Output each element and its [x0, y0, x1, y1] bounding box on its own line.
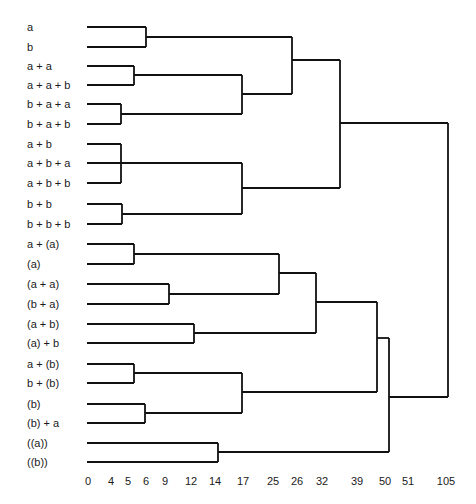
leaf-label: (b + a)	[27, 298, 59, 310]
leaf-label: a + b + a	[27, 157, 71, 169]
leaf-label: b	[27, 41, 33, 53]
x-tick-label: 17	[237, 475, 249, 487]
leaf-label: b + (b)	[27, 377, 59, 389]
x-tick-label: 32	[316, 475, 328, 487]
leaf-label: b + a + a	[27, 98, 71, 110]
leaf-label: a + b	[27, 138, 52, 150]
x-tick-label: 25	[267, 475, 279, 487]
x-tick-label: 9	[162, 475, 168, 487]
leaf-label: (a + b)	[27, 318, 59, 330]
leaf-label: a + a	[27, 60, 53, 72]
leaf-label: a + a + b	[27, 79, 70, 91]
leaf-labels: aba + aa + a + bb + a + ab + a + ba + ba…	[27, 21, 71, 468]
x-tick-label: 14	[209, 475, 221, 487]
x-tick-label: 50	[379, 475, 391, 487]
leaf-label: (b) + a	[27, 417, 60, 429]
x-tick-label: 51	[402, 475, 414, 487]
leaf-label: b + a + b	[27, 118, 70, 130]
x-tick-label: 26	[291, 475, 303, 487]
x-axis-tick-labels: 04569121417252632395051105	[85, 475, 455, 487]
leaf-label: (a) + b	[27, 337, 59, 349]
x-tick-label: 105	[437, 475, 455, 487]
leaf-label: a + b + b	[27, 177, 70, 189]
dendrogram: aba + aa + a + bb + a + ab + a + ba + ba…	[0, 0, 476, 504]
x-tick-label: 4	[108, 475, 114, 487]
leaf-label: b + b + b	[27, 218, 70, 230]
leaf-label: a + (b)	[27, 358, 59, 370]
x-tick-label: 12	[185, 475, 197, 487]
leaf-label: a + (a)	[27, 238, 59, 250]
x-tick-label: 5	[125, 475, 131, 487]
x-tick-label: 0	[85, 475, 91, 487]
leaf-label: (a + a)	[27, 278, 59, 290]
leaf-label: b + b	[27, 198, 52, 210]
leaf-label: (b)	[27, 398, 40, 410]
dendrogram-branches	[87, 27, 448, 462]
leaf-label: (a)	[27, 258, 40, 270]
leaf-label: ((a))	[27, 437, 48, 449]
leaf-label: ((b))	[27, 456, 48, 468]
x-tick-label: 39	[351, 475, 363, 487]
x-tick-label: 6	[143, 475, 149, 487]
leaf-label: a	[27, 21, 34, 33]
